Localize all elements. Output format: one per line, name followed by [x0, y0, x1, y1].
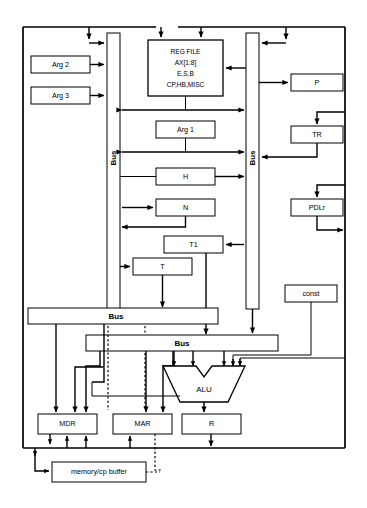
memory-cp-buffer-label: memory/cp buffer — [71, 467, 127, 476]
t1-box: T1 — [164, 236, 223, 253]
pdlr-to-frame-wire — [317, 216, 343, 230]
alu-unit: ALU — [163, 366, 245, 402]
frame-rail-to-alu-wire — [240, 358, 345, 363]
const-label: const — [302, 289, 319, 298]
right-vertical-bus: Bus — [246, 33, 259, 309]
n-label: N — [183, 203, 188, 212]
mar-dotted-out — [155, 434, 163, 470]
mdr-label: MDR — [59, 419, 75, 428]
tr-label: TR — [312, 130, 322, 139]
t1-label: T1 — [189, 240, 197, 249]
alu-feedback-wire — [92, 382, 180, 396]
left-vertical-bus-label: Bus — [109, 150, 118, 166]
lower-horizontal-bus-label: Bus — [174, 339, 190, 348]
arg1-label: Arg 1 — [177, 125, 194, 134]
mdr-box: MDR — [38, 414, 97, 434]
t-label: T — [160, 262, 165, 271]
right-vertical-bus-label: Bus — [248, 150, 257, 166]
p-label: P — [315, 78, 320, 87]
pdlr-label: PDLr — [309, 203, 326, 212]
const-box: const — [285, 285, 337, 302]
frame-to-memory-buffer-wire — [35, 450, 49, 471]
alu-label: ALU — [196, 385, 212, 394]
memory-cp-buffer-box: memory/cp buffer — [52, 462, 146, 482]
upper-horizontal-bus: Bus — [28, 308, 218, 324]
regfile-line-1: REG FILE — [170, 48, 201, 55]
arg2-box: Arg 2 — [31, 56, 90, 73]
upper-horizontal-bus-label: Bus — [108, 312, 124, 321]
tr-to-right-bus-wire — [262, 143, 317, 157]
h-label: H — [183, 172, 188, 181]
frame-to-pdlr-wire — [317, 185, 345, 197]
regfile-line-2: AX[1:8] — [175, 59, 197, 67]
h-box: H — [156, 168, 215, 185]
p-box: P — [291, 74, 343, 91]
tr-box: TR — [291, 126, 343, 143]
const-to-alu-wire — [233, 302, 311, 363]
arg3-label: Arg 3 — [52, 91, 69, 100]
arg2-label: Arg 2 — [52, 60, 69, 69]
mdr-side-wire — [92, 368, 104, 382]
r-box: R — [182, 414, 241, 434]
r-label: R — [209, 419, 214, 428]
frame-to-tr-wire — [317, 112, 345, 124]
left-vertical-bus: Bus — [107, 33, 120, 309]
n-box: N — [156, 199, 215, 216]
cpu-datapath-diagram: Bus Bus REG FILE AX[1:8] E,S,B CP,HB,MIS… — [0, 0, 367, 508]
regfile-line-4: CP,HB,MISC — [167, 81, 205, 88]
arg3-box: Arg 3 — [31, 87, 90, 104]
diagram-canvas: Bus Bus REG FILE AX[1:8] E,S,B CP,HB,MIS… — [0, 0, 367, 508]
n-back-to-left-bus-wire — [122, 216, 186, 227]
register-file-box: REG FILE AX[1:8] E,S,B CP,HB,MISC — [148, 40, 223, 96]
lower-horizontal-bus: Bus — [86, 335, 278, 351]
mar-box: MAR — [113, 414, 172, 434]
arg1-box: Arg 1 — [156, 121, 215, 138]
mar-label: MAR — [135, 419, 151, 428]
regfile-line-3: E,S,B — [177, 70, 194, 77]
t-box: T — [133, 258, 192, 275]
pdlr-box: PDLr — [291, 199, 343, 216]
